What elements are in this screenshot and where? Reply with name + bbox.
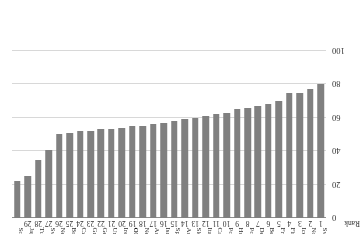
y-tick-label-0: 0 [332,214,364,222]
bar-slot [54,51,64,218]
rank-number: 15 [171,219,179,227]
bar-slot [127,51,137,218]
bar [234,109,240,218]
bar-slot [242,51,252,218]
bar-slot [316,51,326,218]
bar-slot [169,51,179,218]
bar-slot [64,51,74,218]
country-label: Italy [206,228,214,234]
bar [286,93,292,218]
country-label: Israel [164,228,172,234]
bar-slot [221,51,231,218]
bar [129,126,135,218]
bar-slot [12,51,22,218]
bar-slot [295,51,305,218]
bar [35,160,41,218]
country-label: Hungary [237,228,245,234]
bar [318,84,324,218]
bar-slot [284,51,294,218]
bar [223,113,229,218]
rank-number: 1 [319,219,323,227]
bar-slot [232,51,242,218]
bar-slot [159,51,169,218]
country-label: United States [111,228,119,234]
bar [192,118,198,218]
country-label: South Korea [17,228,25,234]
country-label: Turkey [38,228,46,234]
country-label: New Zealand [143,228,151,234]
bar-slot [22,51,32,218]
country-label: Slovakia [195,228,203,234]
rank-number: 29 [24,219,32,227]
bar-slot [148,51,158,218]
bar [24,176,30,218]
rank-number: 7 [256,219,260,227]
rank-number: 17 [150,219,158,227]
bar-slot [253,51,263,218]
y-tick-label-80: 80 [332,80,364,88]
bar [276,101,282,218]
rank-number: 22 [97,219,105,227]
rank-number: 28 [34,219,42,227]
rank-number: 2 [308,219,312,227]
bar [87,131,93,218]
rank-number: 18 [139,219,147,227]
bar [181,119,187,218]
bar-series [12,51,326,218]
bar-slot [138,51,148,218]
bar [45,150,51,218]
bar [244,108,250,218]
bar-slot [305,51,315,218]
bar [297,93,303,218]
bar [108,130,114,219]
bar-slot [85,51,95,218]
bar [213,114,219,218]
bar-slot [75,51,85,218]
country-label: Netherlands [59,228,67,234]
bar-slot [33,51,43,218]
plot-area [12,51,326,218]
country-label: Austria [185,228,193,234]
country-label: Denmark [258,228,266,234]
rotated-chart-container: Rank 020406080100 1Sweden2Norway3Iceland… [0,0,364,234]
bar [265,104,271,218]
country-label: Britain [70,228,78,234]
rank-number: 12 [202,219,210,227]
rank-number: 10 [223,219,231,227]
bar-slot [211,51,221,218]
country-label: Belgium [268,228,276,234]
country-label: Spain [174,228,182,234]
country-label: Canada [216,228,224,234]
bar [66,133,72,218]
rank-number: 20 [118,219,126,227]
rank-number: 21 [108,219,116,227]
bar [307,89,313,218]
bar [161,123,167,218]
bar-slot [106,51,116,218]
y-tick-label-20: 20 [332,181,364,189]
bar [171,121,177,218]
bar [150,124,156,218]
x-axis-category-labels: 1Sweden2Norway3Iceland4Finland5France6Be… [12,218,326,234]
y-axis-tick-labels: 020406080100 [330,51,364,218]
rank-number: 26 [55,219,63,227]
country-label: Greece [91,228,99,234]
rank-number: 11 [213,219,220,227]
y-tick-label-60: 60 [332,114,364,122]
bar [77,131,83,218]
bar-slot [190,51,200,218]
bar [14,181,20,218]
rank-number: 27 [45,219,53,227]
country-label: Australia [153,228,161,234]
country-label: Portugal [248,228,256,234]
bar-slot [117,51,127,218]
rank-number: 16 [160,219,168,227]
bar-slot [274,51,284,218]
country-label: Poland [227,228,235,234]
rank-number: 5 [277,219,281,227]
y-tick-label-40: 40 [332,147,364,155]
rank-number: 8 [246,219,250,227]
country-label: France [279,228,287,234]
bar [255,106,261,218]
country-label: Czech Republic [80,228,88,234]
